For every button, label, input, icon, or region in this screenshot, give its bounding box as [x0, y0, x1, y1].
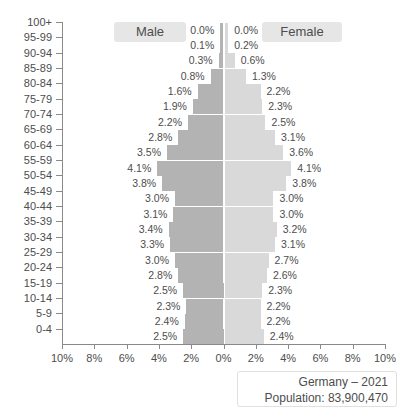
bar-male: [162, 176, 223, 191]
y-axis-label: 45-49: [0, 186, 52, 197]
bar-value-male: 2.2%: [124, 115, 182, 130]
bar-value-female: 2.5%: [271, 115, 329, 130]
bar-male: [219, 53, 224, 68]
y-axis-label: 10-14: [0, 293, 52, 304]
y-axis-label: 25-29: [0, 247, 52, 258]
y-axis-label: 55-59: [0, 155, 52, 166]
x-axis-tick: [385, 344, 386, 349]
bar-male: [167, 145, 224, 160]
bar-value-male: 0.8%: [147, 69, 205, 84]
bar-value-male: 1.9%: [129, 99, 187, 114]
y-axis-tick: [56, 191, 62, 192]
bar-female: [225, 268, 267, 283]
bar-female: [225, 329, 264, 344]
bar-value-female: 2.2%: [267, 84, 325, 99]
bar-female: [225, 253, 269, 268]
bar-value-male: 2.3%: [122, 299, 180, 314]
y-axis-label: 0-4: [0, 324, 52, 335]
bar-value-female: 2.4%: [270, 329, 328, 344]
bar-female: [225, 130, 275, 145]
y-axis-tick: [56, 206, 62, 207]
bar-value-female: 3.0%: [279, 207, 337, 222]
bar-female: [225, 23, 228, 38]
bar-male: [185, 314, 224, 329]
bar-male: [175, 253, 223, 268]
bar-male: [188, 115, 224, 130]
bar-female: [225, 145, 283, 160]
y-axis-tick: [56, 313, 62, 314]
legend-female[interactable]: Female: [262, 22, 342, 42]
bar-value-female: 2.2%: [267, 299, 325, 314]
y-axis-tick: [56, 283, 62, 284]
bar-value-female: 3.0%: [279, 191, 337, 206]
x-axis-tick: [94, 344, 95, 349]
bar-male: [198, 84, 224, 99]
bar-female: [225, 38, 228, 53]
bar-male: [186, 299, 223, 314]
y-axis-tick: [56, 298, 62, 299]
x-axis-tick: [191, 344, 192, 349]
y-axis-label: 50-54: [0, 170, 52, 181]
bar-male: [183, 283, 223, 298]
bar-value-male: 2.5%: [119, 283, 177, 298]
bar-value-male: 3.0%: [111, 191, 169, 206]
y-axis-tick: [56, 160, 62, 161]
legend-male[interactable]: Male: [114, 22, 186, 42]
x-axis-tick: [256, 344, 257, 349]
y-axis-label: 65-69: [0, 124, 52, 135]
y-axis-label: 95-99: [0, 32, 52, 43]
y-axis-label: 90-94: [0, 48, 52, 59]
y-axis-tick: [56, 145, 62, 146]
y-axis-tick: [56, 329, 62, 330]
y-axis-label: 15-19: [0, 278, 52, 289]
y-axis-tick: [56, 68, 62, 69]
bar-male: [170, 237, 223, 252]
bar-value-female: 3.8%: [292, 176, 350, 191]
bar-value-female: 3.1%: [281, 237, 339, 252]
bar-value-male: 2.8%: [114, 130, 172, 145]
y-axis-tick: [56, 267, 62, 268]
bar-female: [225, 191, 273, 206]
bar-male: [173, 207, 223, 222]
bar-female: [225, 84, 261, 99]
x-axis-tick: [353, 344, 354, 349]
bar-male: [157, 161, 223, 176]
bar-value-female: 2.3%: [268, 283, 326, 298]
y-axis-label: 80-84: [0, 78, 52, 89]
bar-value-male: 3.4%: [105, 222, 163, 237]
bar-value-female: 2.7%: [275, 253, 333, 268]
y-axis-label: 40-44: [0, 201, 52, 212]
bar-female: [225, 222, 277, 237]
bar-male: [211, 69, 224, 84]
chart-footer-box: Germany – 2021 Population: 83,900,470: [237, 371, 397, 407]
bar-value-male: 2.8%: [114, 268, 172, 283]
bar-male: [193, 99, 224, 114]
bar-value-female: 2.3%: [268, 99, 326, 114]
bar-value-female: 2.6%: [273, 268, 331, 283]
bar-male: [175, 191, 223, 206]
bar-female: [225, 115, 265, 130]
bar-value-female: 2.2%: [267, 314, 325, 329]
bar-female: [225, 314, 261, 329]
bar-value-male: 2.4%: [121, 314, 179, 329]
bar-value-male: 3.0%: [111, 253, 169, 268]
y-axis-tick: [56, 22, 62, 23]
y-axis-label: 30-34: [0, 232, 52, 243]
bar-female: [225, 207, 273, 222]
bar-female: [225, 53, 235, 68]
x-axis-tick: [127, 344, 128, 349]
bar-male: [178, 130, 223, 145]
bar-value-male: 3.8%: [98, 176, 156, 191]
bar-female: [225, 176, 286, 191]
y-axis-label: 100+: [0, 17, 52, 28]
bar-value-male: 4.1%: [93, 161, 151, 176]
bar-male: [183, 329, 223, 344]
y-axis-tick: [56, 252, 62, 253]
x-axis-tick: [224, 344, 225, 349]
bar-value-female: 3.2%: [283, 222, 341, 237]
bar-value-female: 3.6%: [289, 145, 347, 160]
bar-female: [225, 283, 262, 298]
bar-value-female: 3.1%: [281, 130, 339, 145]
bar-value-female: 4.1%: [297, 161, 355, 176]
y-axis-tick: [56, 53, 62, 54]
